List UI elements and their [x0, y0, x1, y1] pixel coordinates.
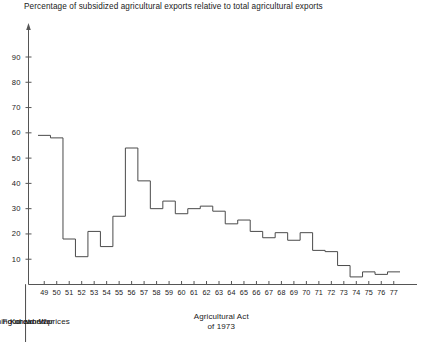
era-world-prices: Opening on world prices — [0, 317, 86, 327]
era-label-line1: Agricultural Act — [161, 312, 281, 322]
x-axis-tick-label: 77 — [387, 288, 401, 297]
y-axis-tick-label: 60 — [5, 128, 21, 137]
y-axis-tick-label: 20 — [5, 229, 21, 238]
y-axis-tick-label: 40 — [5, 179, 21, 188]
era-label-line2: of 1973 — [161, 322, 281, 332]
tick-group — [26, 57, 394, 285]
chart-figure: Percentage of subsidized agricultural ex… — [0, 0, 429, 347]
y-axis-tick-label: 30 — [5, 204, 21, 213]
era-label-line1: Opening on world prices — [0, 317, 86, 327]
era-ag-act: Agricultural Actof 1973 — [161, 312, 281, 332]
y-axis-tick-label: 90 — [5, 53, 21, 62]
y-axis-arrowhead — [26, 23, 31, 30]
y-axis-tick-label: 50 — [5, 154, 21, 163]
y-axis-tick-label: 10 — [5, 255, 21, 264]
y-axis-tick-label: 80 — [5, 78, 21, 87]
data-step-line — [38, 135, 400, 277]
y-axis-tick-label: 70 — [5, 103, 21, 112]
axes-group — [26, 23, 417, 285]
